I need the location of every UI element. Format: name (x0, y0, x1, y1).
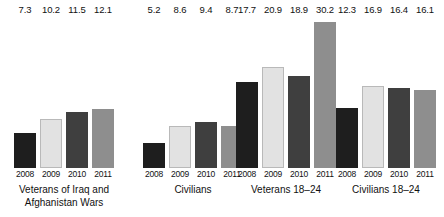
bar-slot: 30.2 (314, 16, 336, 168)
x-tick-label: 2008 (143, 168, 165, 180)
bar-value-label: 8.6 (174, 4, 187, 15)
bar-value-label: 16.4 (390, 4, 408, 15)
x-tick-label: 2010 (66, 168, 88, 180)
bar-slot: 20.9 (262, 16, 284, 168)
group-label: Veterans 18–24 (236, 184, 336, 197)
bar-value-label: 11.5 (68, 4, 85, 15)
bar-value-label: 12.3 (338, 4, 356, 15)
x-axis-tick-labels: 2008200920102011 (143, 168, 243, 180)
x-axis-tick-labels: 2008200920102011 (236, 168, 336, 180)
x-tick-label: 2011 (414, 168, 436, 180)
bar-slot: 17.7 (236, 16, 258, 168)
x-tick-label: 2010 (288, 168, 310, 180)
bar-group: 7.310.211.512.12008200920102011Veterans … (14, 0, 114, 217)
bar-value-label: 12.1 (94, 4, 112, 15)
bar-2009[interactable] (169, 126, 191, 168)
group-label-line: Civilians 18–24 (336, 184, 436, 197)
x-tick-label: 2010 (388, 168, 410, 180)
bar-slot: 9.4 (195, 16, 217, 168)
bar-slot: 8.6 (169, 16, 191, 168)
group-label: Veterans of Iraq andAfghanistan Wars (14, 184, 114, 209)
bar-value-label: 5.2 (148, 4, 161, 15)
bar-slot: 12.1 (92, 16, 114, 168)
bar-2011[interactable] (92, 109, 114, 168)
bar-value-label: 18.9 (290, 4, 308, 15)
bar-slot: 5.2 (143, 16, 165, 168)
bar-2008[interactable] (14, 133, 36, 168)
bar-2008[interactable] (336, 108, 358, 168)
bar-group: 12.316.916.416.12008200920102011Civilian… (336, 0, 436, 217)
bar-2009[interactable] (40, 119, 62, 168)
x-axis-tick-labels: 2008200920102011 (14, 168, 114, 180)
bar-2011[interactable] (414, 90, 436, 168)
bar-2009[interactable] (362, 86, 384, 168)
x-tick-label: 2011 (92, 168, 114, 180)
bar-2011[interactable] (314, 22, 336, 168)
group-label-line: Veterans 18–24 (236, 184, 336, 197)
x-tick-label: 2008 (14, 168, 36, 180)
bar-2010[interactable] (66, 112, 88, 168)
bar-2010[interactable] (288, 76, 310, 168)
bar-slot: 16.1 (414, 16, 436, 168)
x-tick-label: 2009 (40, 168, 62, 180)
x-tick-label: 2010 (195, 168, 217, 180)
bar-chart: 7.310.211.512.12008200920102011Veterans … (0, 0, 444, 217)
group-label-line: Afghanistan Wars (14, 197, 114, 210)
bar-2010[interactable] (388, 88, 410, 168)
bar-group-bars: 12.316.916.416.1 (336, 16, 436, 168)
bar-slot: 11.5 (66, 16, 88, 168)
bar-slot: 7.3 (14, 16, 36, 168)
plot-area: 7.310.211.512.12008200920102011Veterans … (0, 0, 444, 217)
group-label-line: Civilians (143, 184, 243, 197)
x-tick-label: 2008 (236, 168, 258, 180)
bar-slot: 16.9 (362, 16, 384, 168)
x-tick-label: 2008 (336, 168, 358, 180)
x-tick-label: 2011 (314, 168, 336, 180)
bar-2010[interactable] (195, 122, 217, 168)
bar-group-bars: 17.720.918.930.2 (236, 16, 336, 168)
bar-slot: 18.9 (288, 16, 310, 168)
x-axis-tick-labels: 2008200920102011 (336, 168, 436, 180)
bar-slot: 10.2 (40, 16, 62, 168)
bar-2008[interactable] (143, 143, 165, 168)
bar-group-bars: 5.28.69.48.7 (143, 16, 243, 168)
group-label-line: Veterans of Iraq and (14, 184, 114, 197)
bar-value-label: 7.3 (19, 4, 32, 15)
x-tick-label: 2009 (169, 168, 191, 180)
bar-group: 5.28.69.48.72008200920102011Civilians (143, 0, 243, 217)
bar-value-label: 16.1 (416, 4, 434, 15)
bar-value-label: 20.9 (264, 4, 282, 15)
bar-group-bars: 7.310.211.512.1 (14, 16, 114, 168)
x-tick-label: 2009 (362, 168, 384, 180)
bar-value-label: 17.7 (238, 4, 256, 15)
bar-2009[interactable] (262, 67, 284, 168)
x-tick-label: 2009 (262, 168, 284, 180)
bar-value-label: 10.2 (42, 4, 60, 15)
bar-slot: 12.3 (336, 16, 358, 168)
bar-2008[interactable] (236, 82, 258, 168)
group-label: Civilians (143, 184, 243, 197)
bar-group: 17.720.918.930.22008200920102011Veterans… (236, 0, 336, 217)
bar-value-label: 9.4 (200, 4, 213, 15)
bar-value-label: 30.2 (316, 4, 334, 15)
bar-value-label: 16.9 (364, 4, 382, 15)
group-label: Civilians 18–24 (336, 184, 436, 197)
bar-slot: 16.4 (388, 16, 410, 168)
